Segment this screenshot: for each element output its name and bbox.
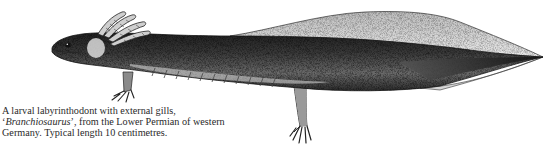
caption-line-3: Germany. Typical length 10 centimetres.	[2, 128, 302, 139]
caption-genus-name: Branchiosaurus	[5, 116, 70, 127]
figure-caption: A larval labyrinthodont with external gi…	[2, 106, 302, 138]
front-leg	[112, 72, 134, 102]
caption-line-2-rest: ’, from the Lower Permian of western	[71, 116, 225, 127]
caption-line-2: ‘Branchiosaurus’, from the Lower Permian…	[2, 117, 302, 128]
eye-icon	[65, 42, 70, 47]
